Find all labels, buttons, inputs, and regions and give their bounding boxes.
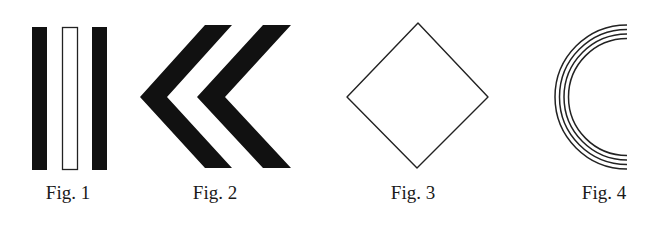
- arc-3: [564, 34, 627, 160]
- solid-bar-right: [92, 27, 107, 170]
- figure-3-diamond: [347, 23, 488, 168]
- outline-bar-middle: [63, 28, 78, 170]
- caption-fig-4: Fig. 4: [554, 180, 650, 206]
- arc-outer: [555, 25, 627, 169]
- diamond-outline: [347, 23, 488, 168]
- caption-fig-3: Fig. 3: [363, 180, 463, 206]
- solid-bar-left: [32, 27, 47, 170]
- arc-inner: [569, 39, 628, 156]
- figure-1-bars: [32, 27, 107, 170]
- figure-2-chevrons: [140, 25, 291, 168]
- caption-fig-1: Fig. 1: [18, 180, 118, 206]
- caption-fig-2: Fig. 2: [165, 180, 265, 206]
- figure-4-arcs: [555, 25, 627, 169]
